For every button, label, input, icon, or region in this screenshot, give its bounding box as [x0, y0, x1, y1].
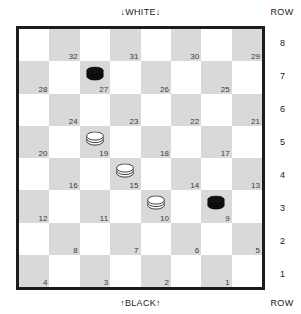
- square-number-label: 28: [38, 85, 47, 94]
- checkers-board-figure: ↓WHITE↓ ROW 3231302928272625242322212019…: [0, 0, 301, 314]
- board-square-16[interactable]: 16: [49, 158, 79, 190]
- square-number-label: 20: [38, 149, 47, 158]
- board-square-31[interactable]: 31: [110, 29, 140, 61]
- board-square-light-r8-c5[interactable]: [141, 29, 171, 61]
- board-square-light-r5-c4[interactable]: [110, 126, 140, 158]
- square-number-label: 19: [99, 149, 108, 158]
- row-number-6: 6: [266, 92, 299, 125]
- board-square-9[interactable]: 9: [201, 190, 231, 222]
- board-square-light-r3-c8[interactable]: [232, 190, 262, 222]
- square-number-label: 5: [256, 246, 260, 255]
- board-square-10[interactable]: 10: [141, 190, 171, 222]
- board-square-28[interactable]: 28: [19, 61, 49, 93]
- board-square-21[interactable]: 21: [232, 94, 262, 126]
- board-square-light-r4-c5[interactable]: [141, 158, 171, 190]
- board-square-light-r5-c2[interactable]: [49, 126, 79, 158]
- board-square-19[interactable]: 19: [80, 126, 110, 158]
- board-square-light-r6-c1[interactable]: [19, 94, 49, 126]
- board-square-light-r7-c8[interactable]: [232, 61, 262, 93]
- board-square-light-r2-c1[interactable]: [19, 223, 49, 255]
- board-square-1[interactable]: 1: [201, 255, 231, 287]
- board-square-light-r2-c5[interactable]: [141, 223, 171, 255]
- board-square-light-r6-c7[interactable]: [201, 94, 231, 126]
- board-square-light-r4-c3[interactable]: [80, 158, 110, 190]
- board-square-light-r2-c7[interactable]: [201, 223, 231, 255]
- square-number-label: 32: [69, 52, 78, 61]
- board-square-light-r5-c6[interactable]: [171, 126, 201, 158]
- board-square-light-r3-c6[interactable]: [171, 190, 201, 222]
- board-square-light-r7-c2[interactable]: [49, 61, 79, 93]
- board-square-7[interactable]: 7: [110, 223, 140, 255]
- board-square-light-r3-c2[interactable]: [49, 190, 79, 222]
- board-square-light-r6-c3[interactable]: [80, 94, 110, 126]
- board-square-light-r4-c7[interactable]: [201, 158, 231, 190]
- board-square-5[interactable]: 5: [232, 223, 262, 255]
- board-square-light-r8-c7[interactable]: [201, 29, 231, 61]
- square-number-label: 25: [221, 85, 230, 94]
- board-square-2[interactable]: 2: [141, 255, 171, 287]
- board-square-8[interactable]: 8: [49, 223, 79, 255]
- board-square-light-r1-c2[interactable]: [49, 255, 79, 287]
- square-number-label: 29: [251, 52, 260, 61]
- board-square-29[interactable]: 29: [232, 29, 262, 61]
- row-number-5: 5: [266, 125, 299, 158]
- board-square-light-r2-c3[interactable]: [80, 223, 110, 255]
- piece-white-king-on-square-15[interactable]: [114, 164, 137, 181]
- checkers-board[interactable]: 3231302928272625242322212019181716151413…: [16, 26, 265, 290]
- board-square-4[interactable]: 4: [19, 255, 49, 287]
- board-square-24[interactable]: 24: [49, 94, 79, 126]
- board-square-14[interactable]: 14: [171, 158, 201, 190]
- board-square-26[interactable]: 26: [141, 61, 171, 93]
- board-square-light-r7-c4[interactable]: [110, 61, 140, 93]
- square-number-label: 24: [69, 117, 78, 126]
- square-number-label: 10: [160, 214, 169, 223]
- square-number-label: 30: [190, 52, 199, 61]
- board-square-25[interactable]: 25: [201, 61, 231, 93]
- white-side-label: ↓WHITE↓: [0, 7, 281, 17]
- row-header-bottom: ROW: [266, 298, 298, 308]
- piece-black-king-on-square-9[interactable]: [205, 196, 228, 213]
- board-square-light-r3-c4[interactable]: [110, 190, 140, 222]
- row-number-2: 2: [266, 224, 299, 257]
- board-square-light-r5-c8[interactable]: [232, 126, 262, 158]
- board-square-3[interactable]: 3: [80, 255, 110, 287]
- row-number-7: 7: [266, 59, 299, 92]
- board-square-27[interactable]: 27: [80, 61, 110, 93]
- piece-white-king-on-square-19[interactable]: [83, 131, 106, 148]
- piece-white-king-on-square-10[interactable]: [144, 196, 167, 213]
- board-square-18[interactable]: 18: [141, 126, 171, 158]
- row-number-axis: 87654321: [266, 26, 299, 290]
- board-square-light-r1-c8[interactable]: [232, 255, 262, 287]
- square-number-label: 16: [69, 181, 78, 190]
- board-square-light-r6-c5[interactable]: [141, 94, 171, 126]
- board-square-11[interactable]: 11: [80, 190, 110, 222]
- board-square-light-r8-c3[interactable]: [80, 29, 110, 61]
- board-square-6[interactable]: 6: [171, 223, 201, 255]
- board-square-15[interactable]: 15: [110, 158, 140, 190]
- row-header-top: ROW: [266, 7, 298, 17]
- square-number-label: 22: [190, 117, 199, 126]
- square-number-label: 17: [221, 149, 230, 158]
- square-number-label: 3: [104, 278, 108, 287]
- board-square-13[interactable]: 13: [232, 158, 262, 190]
- black-side-label: ↑BLACK↑: [0, 298, 281, 308]
- board-square-30[interactable]: 30: [171, 29, 201, 61]
- board-square-light-r4-c1[interactable]: [19, 158, 49, 190]
- square-number-label: 21: [251, 117, 260, 126]
- board-square-32[interactable]: 32: [49, 29, 79, 61]
- row-number-8: 8: [266, 26, 299, 59]
- board-square-light-r1-c4[interactable]: [110, 255, 140, 287]
- square-number-label: 15: [130, 181, 139, 190]
- board-square-20[interactable]: 20: [19, 126, 49, 158]
- board-square-light-r1-c6[interactable]: [171, 255, 201, 287]
- board-square-light-r7-c6[interactable]: [171, 61, 201, 93]
- board-square-23[interactable]: 23: [110, 94, 140, 126]
- board-square-12[interactable]: 12: [19, 190, 49, 222]
- square-number-label: 31: [130, 52, 139, 61]
- square-number-label: 2: [164, 278, 168, 287]
- piece-black-king-on-square-27[interactable]: [83, 67, 106, 84]
- board-square-22[interactable]: 22: [171, 94, 201, 126]
- board-square-light-r8-c1[interactable]: [19, 29, 49, 61]
- board-square-17[interactable]: 17: [201, 126, 231, 158]
- square-number-label: 6: [195, 246, 199, 255]
